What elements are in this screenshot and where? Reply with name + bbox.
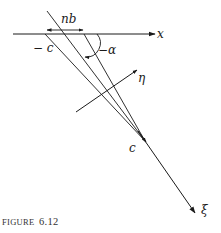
minus-alpha-label: −α [98, 43, 116, 57]
x-axis-label: x [157, 27, 164, 41]
caption-number: 6.12 [39, 216, 59, 227]
minus-c-label: − c [33, 41, 54, 55]
convergence-arrow [138, 131, 146, 142]
figure-caption: FIGURE 6.12 [2, 216, 59, 227]
c-label: c [129, 141, 136, 155]
ray-line-minus-c [45, 34, 145, 141]
xi-axis-label: ξ [201, 203, 209, 217]
diagram-figure-6-12: x ξ c η nb − c −α FIGURE 6.12 [0, 0, 221, 233]
caption-prefix: FIGURE [2, 217, 35, 227]
eta-axis-line [76, 70, 137, 112]
ray-line-upper [47, 11, 145, 141]
eta-axis-label: η [138, 71, 146, 85]
xi-axis-line [145, 141, 195, 213]
nb-label: nb [61, 12, 76, 26]
